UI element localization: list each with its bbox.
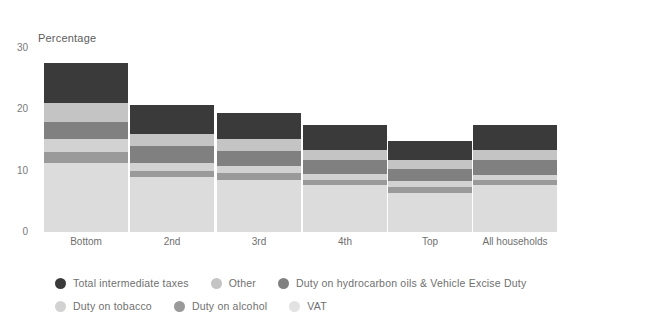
legend-swatch-icon [55,301,66,312]
bar-bottom[interactable] [44,64,128,232]
legend-swatch-icon [278,278,289,289]
bar-segment-duty-on-hydrocarbon-oils-vehicle-excise-duty [217,151,301,166]
bar-segment-duty-on-alcohol [388,187,472,193]
bar-segment-vat [44,163,128,232]
bar-segment-duty-on-tobacco [473,175,557,180]
bar-segment-duty-on-alcohol [130,171,214,177]
bar-all-households[interactable] [473,125,557,232]
legend-swatch-icon [289,301,300,312]
bar-2nd[interactable] [130,105,214,232]
bar-segment-duty-on-alcohol [303,180,387,185]
x-axis-label-3rd: 3rd [217,236,301,247]
bar-3rd[interactable] [217,113,301,232]
bar-segment-total-intermediate-taxes [44,63,128,102]
bar-4th[interactable] [303,125,387,232]
legend-item-duty-on-hydrocarbon-oils-vehicle-excise-duty[interactable]: Duty on hydrocarbon oils & Vehicle Excis… [278,277,526,289]
legend-item-duty-on-tobacco[interactable]: Duty on tobacco [55,300,152,312]
legend-label: Duty on hydrocarbon oils & Vehicle Excis… [296,277,526,289]
bar-segment-duty-on-tobacco [388,181,472,187]
legend-item-duty-on-alcohol[interactable]: Duty on alcohol [174,300,267,312]
bar-segment-other [44,103,128,122]
bar-segment-other [303,150,387,160]
bar-segment-duty-on-tobacco [44,139,128,151]
bar-segment-duty-on-hydrocarbon-oils-vehicle-excise-duty [130,146,214,163]
legend-label: VAT [307,300,326,312]
bar-segment-vat [473,185,557,232]
legend-swatch-icon [174,301,185,312]
legend-label: Duty on alcohol [192,300,267,312]
bar-segment-other [388,160,472,169]
bar-segment-total-intermediate-taxes [217,113,301,139]
legend-swatch-icon [211,278,222,289]
plot-area [0,0,665,318]
bar-segment-vat [217,180,301,232]
legend-row-row2: Duty on tobaccoDuty on alcoholVAT [55,300,349,312]
bar-segment-duty-on-hydrocarbon-oils-vehicle-excise-duty [303,160,387,174]
legend-label: Total intermediate taxes [73,277,189,289]
bar-segment-duty-on-tobacco [130,163,214,171]
bar-segment-vat [388,193,472,232]
legend-label: Duty on tobacco [73,300,152,312]
legend-item-other[interactable]: Other [211,277,256,289]
bar-segment-duty-on-hydrocarbon-oils-vehicle-excise-duty [44,122,128,140]
bar-segment-vat [303,185,387,232]
x-axis-label-2nd: 2nd [130,236,214,247]
bar-segment-vat [130,177,214,232]
bar-segment-total-intermediate-taxes [130,105,214,134]
bar-segment-duty-on-alcohol [217,173,301,180]
stacked-bar-chart: Percentage 0102030 Bottom2nd3rd4thTopAll… [0,0,665,318]
legend-row-row1: Total intermediate taxesOtherDuty on hyd… [55,277,548,289]
bar-segment-duty-on-alcohol [473,180,557,186]
bar-top[interactable] [388,141,472,232]
x-axis-label-4th: 4th [303,236,387,247]
x-axis-label-top: Top [388,236,472,247]
bar-segment-other [473,150,557,160]
bar-segment-duty-on-alcohol [44,152,128,163]
legend-swatch-icon [55,278,66,289]
legend-item-total-intermediate-taxes[interactable]: Total intermediate taxes [55,277,189,289]
bar-segment-total-intermediate-taxes [473,125,557,150]
bar-segment-duty-on-tobacco [217,166,301,173]
bar-segment-duty-on-tobacco [303,174,387,180]
bar-segment-other [217,139,301,151]
bar-segment-duty-on-hydrocarbon-oils-vehicle-excise-duty [473,160,557,175]
x-axis-label-bottom: Bottom [44,236,128,247]
bar-segment-duty-on-hydrocarbon-oils-vehicle-excise-duty [388,169,472,181]
legend-item-vat[interactable]: VAT [289,300,326,312]
bar-segment-total-intermediate-taxes [303,125,387,150]
legend-label: Other [229,277,256,289]
x-axis-label-all-households: All households [473,236,557,247]
bar-segment-total-intermediate-taxes [388,141,472,160]
bar-segment-other [130,134,214,146]
